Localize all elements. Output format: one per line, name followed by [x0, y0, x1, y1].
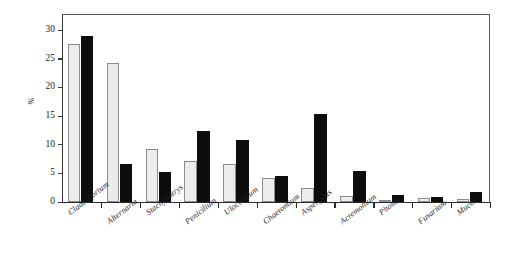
x-tick-9	[451, 202, 452, 208]
bar-group	[340, 15, 366, 202]
y-tick-mark	[58, 144, 63, 145]
bar-group	[184, 15, 210, 202]
bar	[184, 161, 197, 202]
bar	[81, 36, 94, 202]
bar-group	[107, 15, 133, 202]
bar-group	[223, 15, 249, 202]
bar	[223, 164, 236, 202]
y-tick-label: 15	[46, 109, 56, 122]
bar	[68, 44, 81, 202]
bar-chart-figure: % 051015202530 CladosporiumAlternariaSta…	[0, 0, 515, 266]
x-tick-4	[257, 202, 258, 208]
x-tick-7	[373, 202, 374, 208]
bar-group	[146, 15, 172, 202]
bar-group	[379, 15, 405, 202]
y-tick-mark	[58, 87, 63, 88]
y-tick-label: 25	[46, 52, 56, 65]
bar	[353, 171, 366, 203]
bar-group	[301, 15, 327, 202]
bar	[262, 178, 275, 202]
y-tick-mark	[58, 30, 63, 31]
bar	[340, 196, 353, 202]
bar-group	[262, 15, 288, 202]
y-axis-label: %	[26, 86, 36, 116]
bar	[107, 63, 120, 202]
bar-group	[418, 15, 444, 202]
x-tick-2	[179, 202, 180, 208]
y-tick-mark	[58, 173, 63, 174]
bar-group	[457, 15, 483, 202]
x-tick-6	[334, 202, 335, 208]
bar	[197, 131, 210, 202]
y-tick-label: 30	[46, 23, 56, 36]
y-tick-label: 0	[50, 195, 55, 208]
x-tick-10	[490, 202, 491, 208]
x-tick-0	[101, 202, 102, 208]
y-tick-label: 20	[46, 80, 56, 93]
y-tick-mark	[58, 202, 63, 203]
y-tick-mark	[58, 116, 63, 117]
bar	[146, 149, 159, 202]
bar	[418, 198, 431, 202]
bar	[120, 164, 133, 202]
x-tick-8	[412, 202, 413, 208]
y-tick-mark	[58, 58, 63, 59]
y-tick-label: 5	[50, 166, 55, 179]
plot-area: 051015202530	[62, 14, 490, 203]
bar-group	[68, 15, 94, 202]
y-tick-label: 10	[46, 138, 56, 151]
x-tick-1	[140, 202, 141, 208]
